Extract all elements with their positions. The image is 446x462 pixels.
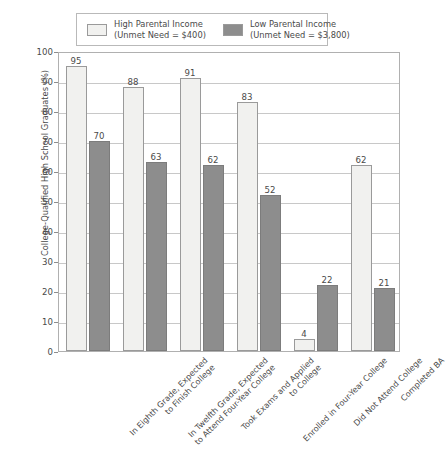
legend-entry-low-parental-income: Low Parental Income (Unmet Need = $3,800…	[215, 19, 327, 40]
chart-legend: High Parental Income (Unmet Need = $400)…	[76, 13, 328, 46]
legend-label-high-line1: High Parental Income	[114, 19, 203, 29]
bar: 22	[317, 285, 338, 351]
legend-entry-high-parental-income: High Parental Income (Unmet Need = $400)	[77, 19, 215, 40]
bar-value-label: 91	[185, 68, 196, 78]
legend-swatch-low-icon	[223, 24, 243, 36]
legend-swatch-high-icon	[87, 24, 107, 36]
y-tick-label: 60	[13, 167, 53, 177]
bar-value-label: 62	[208, 155, 219, 165]
plot-area: 95889183462706362522221	[58, 52, 400, 352]
legend-label-low-line2: (Unmet Need = $3,800)	[250, 30, 350, 40]
y-tick-label: 0	[13, 347, 53, 357]
bar-value-label: 83	[242, 92, 253, 102]
y-tick-mark	[54, 352, 58, 353]
bar: 21	[374, 288, 395, 351]
y-tick-label: 20	[13, 287, 53, 297]
bar: 70	[89, 141, 110, 351]
y-tick-mark	[54, 52, 58, 53]
bar-value-label: 52	[265, 185, 276, 195]
legend-label-high: High Parental Income (Unmet Need = $400)	[114, 19, 206, 40]
bar-value-label: 4	[301, 329, 306, 339]
y-tick-mark	[54, 142, 58, 143]
bar-value-label: 95	[71, 56, 82, 66]
y-tick-mark	[54, 202, 58, 203]
y-tick-label: 30	[13, 257, 53, 267]
y-tick-label: 70	[13, 137, 53, 147]
bar: 52	[260, 195, 281, 351]
y-tick-label: 40	[13, 227, 53, 237]
bar-value-label: 62	[356, 155, 367, 165]
y-tick-mark	[54, 82, 58, 83]
y-tick-label: 10	[13, 317, 53, 327]
y-tick-label: 100	[13, 47, 53, 57]
bar-value-label: 88	[128, 77, 139, 87]
bar: 63	[146, 162, 167, 351]
bar-value-label: 70	[94, 131, 105, 141]
bar-value-label: 21	[379, 278, 390, 288]
y-tick-mark	[54, 172, 58, 173]
bar: 83	[237, 102, 258, 351]
y-axis-title: College-Qualified High School Graduates …	[40, 13, 50, 313]
bar: 95	[66, 66, 87, 351]
bar: 91	[180, 78, 201, 351]
legend-label-low-line1: Low Parental Income	[250, 19, 336, 29]
y-tick-mark	[54, 262, 58, 263]
y-tick-label: 50	[13, 197, 53, 207]
bar-value-label: 22	[322, 275, 333, 285]
legend-label-high-line2: (Unmet Need = $400)	[114, 30, 206, 40]
y-tick-mark	[54, 322, 58, 323]
y-tick-mark	[54, 112, 58, 113]
bar-group-container: 95889183462706362522221	[59, 53, 399, 351]
bar: 62	[203, 165, 224, 351]
y-tick-mark	[54, 292, 58, 293]
bar: 4	[294, 339, 315, 351]
bar-value-label: 63	[151, 152, 162, 162]
y-tick-label: 80	[13, 107, 53, 117]
legend-label-low: Low Parental Income (Unmet Need = $3,800…	[250, 19, 350, 40]
y-tick-label: 90	[13, 77, 53, 87]
y-tick-mark	[54, 232, 58, 233]
bar: 62	[351, 165, 372, 351]
bar: 88	[123, 87, 144, 351]
